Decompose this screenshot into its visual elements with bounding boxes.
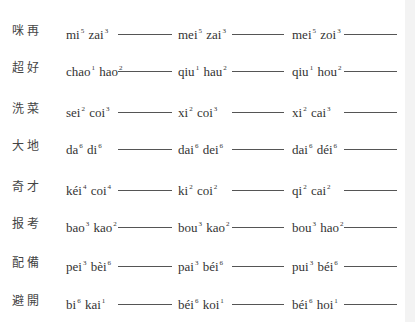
answer-blank[interactable] (344, 71, 397, 72)
exercise-row: 奇才kéi4 coi4ki2 coi2qi2 cai2 (0, 177, 405, 197)
chinese-word: 配備 (12, 253, 42, 273)
tone-number: 6 (220, 142, 224, 150)
syllable: kéi (66, 183, 82, 198)
tone-number: 3 (327, 105, 331, 113)
answer-blank[interactable] (118, 227, 172, 228)
tone-number: 6 (98, 142, 102, 150)
tone-number: 3 (222, 27, 226, 35)
chinese-word: 大地 (12, 136, 42, 156)
tone-number: 5 (199, 27, 203, 35)
romanization-option: chao1 hao2 (66, 58, 124, 82)
tone-number: 3 (199, 220, 203, 228)
syllable: bèi (91, 259, 107, 274)
answer-blank[interactable] (344, 34, 397, 35)
tone-number: 1 (196, 64, 200, 72)
syllable: qi (292, 183, 302, 198)
romanization-option: béi6 koi1 (178, 291, 225, 315)
tone-number: 5 (313, 27, 317, 35)
tone-number: 3 (105, 27, 109, 35)
tone-number: 4 (108, 183, 112, 191)
chinese-word: 咪再 (12, 21, 42, 41)
tone-number: 2 (303, 105, 307, 113)
tone-number: 1 (92, 64, 96, 72)
answer-blank[interactable] (118, 71, 172, 72)
syllable: koi (203, 297, 220, 312)
romanization-option: pui3 béi6 (292, 253, 339, 277)
romanization-option: bao3 kao2 (66, 214, 118, 238)
answer-blank[interactable] (118, 149, 172, 150)
tone-number: 6 (195, 142, 199, 150)
tone-number: 1 (220, 297, 224, 305)
syllable: coi (91, 183, 107, 198)
answer-blank[interactable] (232, 304, 284, 305)
romanization-option: dai6 dei6 (178, 136, 224, 160)
tone-number: 2 (214, 183, 218, 191)
chinese-word: 奇才 (12, 177, 42, 197)
romanization-option: mei5 zoi3 (292, 21, 342, 45)
answer-blank[interactable] (232, 34, 284, 35)
syllable: mei (292, 27, 312, 42)
romanization-option: dai6 déi6 (292, 136, 338, 160)
exercise-row: 超好chao1 hao2qiu1 hau2qiu1 hou2 (0, 58, 405, 78)
chinese-word: 超好 (12, 58, 42, 78)
tone-number: 6 (334, 259, 338, 267)
tone-number: 2 (226, 220, 230, 228)
romanization-option: mi5 zai3 (66, 21, 109, 45)
answer-blank[interactable] (232, 227, 284, 228)
answer-blank[interactable] (344, 112, 397, 113)
tone-number: 6 (195, 297, 199, 305)
answer-blank[interactable] (232, 266, 284, 267)
syllable: pui (292, 259, 309, 274)
syllable: chao (66, 64, 91, 79)
syllable: béi (317, 259, 333, 274)
romanization-option: pei3 bèi6 (66, 253, 112, 277)
answer-blank[interactable] (118, 304, 172, 305)
answer-blank[interactable] (118, 34, 172, 35)
syllable: béi (178, 297, 194, 312)
tone-number: 6 (77, 297, 81, 305)
answer-blank[interactable] (232, 149, 284, 150)
answer-blank[interactable] (344, 149, 397, 150)
syllable: coi (89, 105, 105, 120)
syllable: dei (203, 142, 219, 157)
tone-number: 2 (81, 105, 85, 113)
romanization-option: bi6 kai1 (66, 291, 106, 315)
tone-number: 3 (214, 105, 218, 113)
syllable: kai (85, 297, 101, 312)
answer-blank[interactable] (232, 71, 284, 72)
answer-blank[interactable] (118, 266, 172, 267)
syllable: sei (66, 105, 80, 120)
romanization-option: kéi4 coi4 (66, 177, 112, 201)
answer-blank[interactable] (118, 112, 172, 113)
syllable: zai (206, 27, 221, 42)
tone-number: 6 (108, 259, 112, 267)
answer-blank[interactable] (344, 304, 397, 305)
syllable: bou (292, 220, 312, 235)
exercise-row: 大地da6 di6dai6 dei6dai6 déi6 (0, 136, 405, 156)
syllable: zoi (320, 27, 336, 42)
tone-number: 3 (195, 259, 199, 267)
answer-blank[interactable] (344, 190, 397, 191)
answer-blank[interactable] (344, 266, 397, 267)
tone-number: 2 (223, 64, 227, 72)
syllable: hoi (317, 297, 334, 312)
romanization-option: xi2 coi3 (178, 99, 218, 123)
syllable: bi (66, 297, 76, 312)
tone-number: 2 (327, 183, 331, 191)
answer-blank[interactable] (118, 190, 172, 191)
syllable: dai (178, 142, 194, 157)
page-edge-strip (405, 0, 415, 322)
answer-blank[interactable] (232, 190, 284, 191)
syllable: zai (88, 27, 103, 42)
syllable: coi (197, 105, 213, 120)
answer-blank[interactable] (232, 112, 284, 113)
syllable: di (87, 142, 97, 157)
syllable: hau (203, 64, 222, 79)
tone-number: 3 (106, 105, 110, 113)
romanization-option: qi2 cai2 (292, 177, 332, 201)
exercise-row: 咪再mi5 zai3mei5 zai3mei5 zoi3 (0, 21, 405, 41)
tone-number: 6 (309, 297, 313, 305)
syllable: qiu (178, 64, 195, 79)
romanization-option: xi2 cai3 (292, 99, 332, 123)
answer-blank[interactable] (344, 227, 397, 228)
